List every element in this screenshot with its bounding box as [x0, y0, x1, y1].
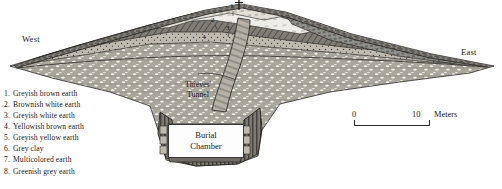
legend-item-number: 3.: [4, 110, 13, 121]
stratum-callout-2: 2: [211, 16, 215, 24]
legend-item-number: 8.: [4, 166, 13, 177]
legend-item-label: Yellowish brown earth: [13, 122, 84, 131]
stratum-callout-4: 4: [202, 33, 206, 41]
burial-chamber-label: Burial Chamber: [168, 124, 244, 158]
legend-item: 3.Greyish white earth: [4, 110, 122, 121]
legend-item-label: Multicolored earth: [13, 155, 72, 164]
legend-item: 8.Greenish grey earth: [4, 166, 122, 177]
legend-item: 1.Greyish brown earth: [4, 88, 122, 99]
legend-item-number: 2.: [4, 99, 13, 110]
legend-item-label: Brownish white earth: [13, 100, 80, 109]
stratum-callout-1: 1: [230, 2, 234, 10]
legend-item-label: Greyish yellow earth: [13, 133, 79, 142]
thieves-tunnel-label: Thieves' Tunnel: [162, 80, 234, 99]
scale-min-label: 0: [352, 110, 356, 119]
legend-item-number: 7.: [4, 154, 13, 165]
burial-chamber-label-line1: Burial: [195, 130, 216, 141]
legend-item: 7.Multicolored earth: [4, 154, 122, 165]
legend-item-label: Grey clay: [13, 144, 44, 153]
figure-root: 1 2 3 4 West East Thieves' Tunnel Burial…: [0, 0, 502, 189]
scale-unit-label: Meters: [434, 110, 457, 119]
legend-item-label: Greyish brown earth: [13, 89, 77, 98]
thieves-tunnel-label-line2: Tunnel: [162, 90, 234, 100]
legend-item-label: Greenish grey earth: [13, 167, 75, 176]
thieves-tunnel-label-line1: Thieves': [162, 80, 234, 90]
legend-item: 6.Grey clay: [4, 143, 122, 154]
scale-rule: [354, 125, 430, 126]
legend-item-number: 5.: [4, 132, 13, 143]
stratum-callout-3: 3: [226, 24, 230, 32]
legend-item-label: Greyish white earth: [13, 111, 75, 120]
scale-bar: 0 10 Meters: [352, 110, 472, 136]
burial-chamber-label-line2: Chamber: [190, 141, 222, 152]
orientation-label-west: West: [22, 34, 40, 44]
legend-item: 2.Brownish white earth: [4, 99, 122, 110]
legend: 1.Greyish brown earth2.Brownish white ea…: [4, 88, 122, 177]
scale-max-label: 10: [412, 110, 420, 119]
legend-item: 5.Greyish yellow earth: [4, 132, 122, 143]
legend-item: 4.Yellowish brown earth: [4, 121, 122, 132]
legend-item-number: 1.: [4, 88, 13, 99]
legend-item-number: 4.: [4, 121, 13, 132]
legend-item-number: 6.: [4, 143, 13, 154]
orientation-label-east: East: [461, 47, 477, 57]
